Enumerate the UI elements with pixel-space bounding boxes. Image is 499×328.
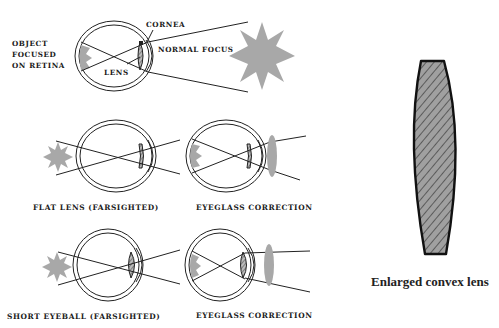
cornea-callout: CORNEA: [146, 20, 185, 29]
retina-image: [190, 144, 202, 168]
star-object: [43, 142, 73, 172]
normal-eyeball: [75, 21, 153, 91]
retina-image: [190, 254, 201, 278]
eyeglass-correction-caption-1: EYEGLASS CORRECTION: [196, 203, 313, 212]
enlarged-convex-lens-panel: Enlarged convex lens: [371, 61, 489, 289]
flat-lens-eye-panel: [43, 120, 180, 192]
eye-lens: [241, 252, 247, 278]
star-object: [42, 252, 72, 282]
short-eyeball-caption: SHORT EYEBALL (FARSIGHTED): [7, 312, 160, 321]
short-eyeball-eye-panel: [42, 229, 180, 301]
object-focused-label-line3: ON RETINA: [12, 61, 65, 70]
enlarged-lens-caption: Enlarged convex lens: [371, 274, 489, 289]
object-focused-label-line2: FOCUSED: [12, 50, 56, 59]
normal-focus-callout: NORMAL FOCUS: [158, 45, 234, 54]
eyeglass-correction-panel-2: [185, 229, 310, 301]
eyeglass-convex-lens: [267, 135, 277, 177]
farsightedness-diagram: OBJECT FOCUSED ON RETINA CORNEA NORMAL F…: [0, 0, 499, 328]
eyeglass-convex-lens: [264, 244, 274, 286]
eye-lens: [247, 144, 252, 168]
eyeglass-correction-panel-1: [186, 120, 306, 192]
eyeglass-correction-caption-2: EYEGLASS CORRECTION: [196, 311, 313, 320]
enlarged-convex-lens: [414, 61, 456, 254]
object-focused-label-line1: OBJECT: [12, 39, 48, 48]
star-object: [229, 22, 295, 90]
normal-eye-panel: OBJECT FOCUSED ON RETINA CORNEA NORMAL F…: [12, 20, 295, 92]
lens-callout: LENS: [104, 68, 129, 77]
flat-lens-caption: FLAT LENS (FARSIGHTED): [33, 203, 159, 212]
retina-image: [80, 45, 93, 70]
